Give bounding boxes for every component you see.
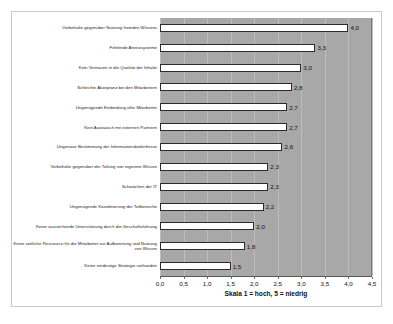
bar-row: 2,7	[160, 117, 371, 137]
bar	[160, 262, 231, 270]
x-tick-label: 1,5	[226, 280, 235, 287]
tick-mark	[231, 277, 232, 279]
bar	[160, 103, 287, 111]
tick-mark	[160, 277, 161, 279]
category-label: Keine zeitliche Ressource für die Mitarb…	[12, 236, 160, 256]
bar	[160, 242, 245, 250]
tick-mark	[207, 277, 208, 279]
category-label: Kein Vertrauen in die Qualität der Inhal…	[12, 58, 160, 78]
bar-row: 3,0	[160, 58, 371, 78]
tick-mark	[372, 277, 373, 279]
category-axis-labels: Vorbehalte gegenüber Nutzung fremden Wis…	[12, 18, 160, 276]
category-label: Ungenügende Koordinierung der Teilbereic…	[12, 197, 160, 217]
bar-row: 2,3	[160, 157, 371, 177]
category-label: Keine ausreichende Unterstützung durch d…	[12, 216, 160, 236]
chart-screenshot: Vorbehalte gegenüber Nutzung fremden Wis…	[0, 0, 393, 324]
bar	[160, 123, 287, 131]
bar-value-label: 1,8	[247, 243, 256, 250]
x-tick-label: 0,5	[179, 280, 188, 287]
gridline	[372, 18, 373, 276]
x-tick-label: 3,5	[321, 280, 330, 287]
bar-row: 2,2	[160, 197, 371, 217]
bar	[160, 24, 348, 32]
bar-value-label: 3,3	[317, 44, 326, 51]
category-label: Kein Austausch mit externen Partnern	[12, 117, 160, 137]
x-tick-label: 1,0	[203, 280, 212, 287]
bar-value-label: 4,0	[350, 24, 359, 31]
x-tick-label: 2,0	[250, 280, 259, 287]
bar-row: 3,3	[160, 38, 371, 58]
bar-row: 2,3	[160, 177, 371, 197]
bar-row: 1,8	[160, 236, 371, 256]
category-label: Schlechte Akzeptanz bei den Mitarbeitern	[12, 78, 160, 98]
bar	[160, 183, 268, 191]
category-label: Ungenügende Einbindung aller Mitarbeiter	[12, 97, 160, 117]
bar	[160, 203, 264, 211]
tick-mark	[325, 277, 326, 279]
bar	[160, 222, 254, 230]
category-label: Keine eindeutige Strategie vorhanden	[12, 256, 160, 276]
bar-row: 1,5	[160, 256, 371, 276]
bar-value-label: 2,7	[289, 124, 298, 131]
x-tick-label: 4,5	[368, 280, 377, 287]
bar-value-label: 2,3	[270, 163, 279, 170]
bar-value-label: 1,5	[233, 263, 242, 270]
bar-value-label: 2,2	[266, 203, 275, 210]
bar-row: 2,0	[160, 216, 371, 236]
tick-mark	[348, 277, 349, 279]
bar	[160, 163, 268, 171]
bar-value-label: 2,6	[284, 143, 293, 150]
bar-row: 2,7	[160, 97, 371, 117]
x-tick-label: 0,0	[156, 280, 165, 287]
category-label: Ungenaue Bestimmung der Informationsbedü…	[12, 137, 160, 157]
x-tick-label: 4,0	[344, 280, 353, 287]
tick-mark	[254, 277, 255, 279]
chart-frame: Vorbehalte gegenüber Nutzung fremden Wis…	[11, 11, 382, 307]
x-axis-title: Skala 1 = hoch, 5 = niedrig	[160, 290, 372, 297]
bar-row: 2,6	[160, 137, 371, 157]
category-label: Schwächen der IT	[12, 177, 160, 197]
bar-value-label: 2,3	[270, 183, 279, 190]
chart-body: Vorbehalte gegenüber Nutzung fremden Wis…	[12, 12, 381, 306]
category-label: Fehlende Anreizsysteme	[12, 38, 160, 58]
bar-series: 4,03,33,02,82,72,72,62,32,32,22,01,81,5	[160, 18, 371, 276]
bar	[160, 83, 292, 91]
bar-value-label: 2,8	[294, 84, 303, 91]
plot-area: 4,03,33,02,82,72,72,62,32,32,22,01,81,5	[160, 18, 372, 276]
x-tick-label: 3,0	[297, 280, 306, 287]
tick-mark	[278, 277, 279, 279]
bar	[160, 143, 282, 151]
tick-mark	[301, 277, 302, 279]
bar	[160, 64, 301, 72]
bar	[160, 44, 315, 52]
category-label: Vorbehalte gegenüber Nutzung fremden Wis…	[12, 18, 160, 38]
x-axis-ticks: 0,00,51,01,52,02,53,03,54,04,5	[160, 277, 372, 289]
bar-value-label: 2,7	[289, 104, 298, 111]
bar-value-label: 3,0	[303, 64, 312, 71]
category-label: Vorbehalte gegenüber der Teilung von eig…	[12, 157, 160, 177]
bar-row: 4,0	[160, 18, 371, 38]
bar-value-label: 2,0	[256, 223, 265, 230]
tick-mark	[184, 277, 185, 279]
bar-row: 2,8	[160, 78, 371, 98]
x-tick-label: 2,5	[273, 280, 282, 287]
